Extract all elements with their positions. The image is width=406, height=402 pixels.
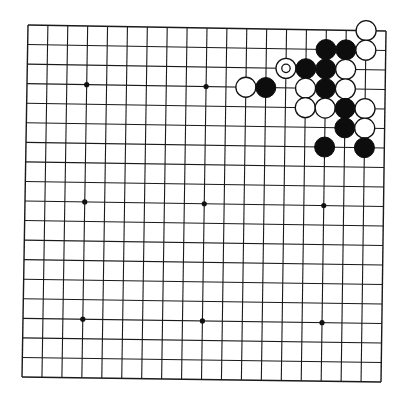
star-point-icon — [203, 84, 208, 89]
white-stone[interactable] — [355, 99, 375, 119]
white-stone-icon — [356, 40, 376, 60]
black-stone[interactable] — [354, 138, 374, 158]
go-board[interactable]: Go board position, upper-right corner fi… — [0, 0, 406, 402]
black-stone-icon — [335, 118, 355, 138]
black-stone[interactable] — [316, 59, 336, 79]
white-stone-icon — [335, 79, 355, 99]
white-stone[interactable] — [236, 77, 256, 97]
white-stone[interactable] — [355, 118, 375, 138]
black-stone-icon — [296, 59, 316, 79]
black-stone-icon — [336, 40, 356, 60]
white-stone-icon — [355, 99, 375, 119]
white-stone[interactable] — [295, 98, 315, 118]
star-point-icon — [319, 320, 324, 325]
black-stone-icon — [316, 59, 336, 79]
white-stone[interactable] — [315, 98, 335, 118]
black-stone[interactable] — [316, 40, 336, 60]
black-stone[interactable] — [296, 59, 316, 79]
white-stone-icon — [295, 98, 315, 118]
star-point-icon — [82, 199, 87, 204]
black-stone-icon — [315, 79, 335, 99]
white-stone-icon — [236, 77, 256, 97]
star-point-icon — [321, 203, 326, 208]
white-stone-icon — [336, 59, 356, 79]
white-stone-icon — [296, 78, 316, 98]
black-stone-icon — [315, 137, 335, 157]
black-stone[interactable] — [315, 137, 335, 157]
white-stone-icon — [276, 58, 296, 78]
star-point-icon — [84, 82, 89, 87]
star-point-icon — [80, 317, 85, 322]
star-point-icon — [202, 201, 207, 206]
star-point-icon — [200, 318, 205, 323]
black-stone-icon — [256, 78, 276, 98]
white-stone[interactable] — [356, 21, 376, 41]
white-stone[interactable] — [335, 79, 355, 99]
star-points — [80, 82, 328, 325]
board-canvas[interactable] — [0, 0, 406, 402]
black-stone-icon — [335, 98, 355, 118]
white-stone[interactable] — [296, 78, 316, 98]
white-stone-icon — [355, 118, 375, 138]
black-stone-icon — [316, 40, 336, 60]
black-stone[interactable] — [256, 78, 276, 98]
black-stone[interactable] — [336, 40, 356, 60]
white-stone-icon — [356, 21, 376, 41]
black-stone[interactable] — [315, 79, 335, 99]
white-stone[interactable] — [276, 58, 296, 78]
black-stone[interactable] — [335, 98, 355, 118]
white-stone-icon — [315, 98, 335, 118]
white-stone[interactable] — [336, 59, 356, 79]
white-stone[interactable] — [356, 40, 376, 60]
black-stone-icon — [354, 138, 374, 158]
black-stone[interactable] — [335, 118, 355, 138]
